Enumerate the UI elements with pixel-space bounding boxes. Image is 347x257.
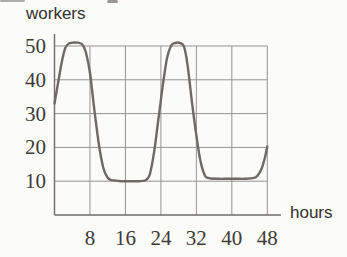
x-axis-title: hours <box>290 204 333 223</box>
y-tick-label: 20 <box>25 135 46 159</box>
scan-artifact <box>0 0 25 2</box>
y-tick-label: 50 <box>25 34 46 58</box>
chart-figure: 102030405081624324048 workers hours <box>0 0 347 257</box>
x-tick-label: 16 <box>115 226 136 250</box>
y-tick-label: 10 <box>25 169 46 193</box>
x-tick-label: 8 <box>85 226 96 250</box>
y-tick-label: 40 <box>25 68 46 92</box>
scan-artifact <box>107 0 118 3</box>
x-tick-label: 40 <box>221 226 242 250</box>
x-tick-label: 32 <box>186 226 207 250</box>
y-axis-title: workers <box>26 5 86 24</box>
x-tick-label: 24 <box>150 226 172 250</box>
y-tick-label: 30 <box>25 102 46 126</box>
x-tick-label: 48 <box>257 226 278 250</box>
